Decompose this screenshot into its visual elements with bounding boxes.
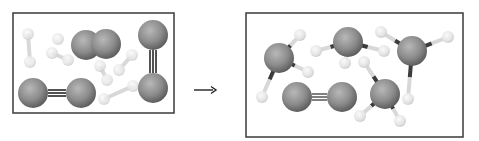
reactants-box <box>13 13 174 113</box>
nitrogen-atom <box>18 78 48 108</box>
nitrogen-atom <box>327 82 357 112</box>
hydrogen-atom <box>24 56 36 68</box>
hydrogen-atom <box>354 110 366 122</box>
hydrogen-atom <box>126 49 138 61</box>
hydrogen-atom <box>378 45 390 57</box>
hydrogen-atom <box>294 29 306 41</box>
nitrogen-atom <box>138 20 168 50</box>
hydrogen-atom <box>358 56 370 68</box>
hydrogen-atom <box>46 47 58 59</box>
hydrogen-atom <box>256 91 268 103</box>
nitrogen-atom <box>264 43 294 73</box>
nitrogen-atom <box>333 27 363 57</box>
nitrogen-atom <box>91 29 121 59</box>
hydrogen-atom <box>52 33 64 45</box>
hydrogen-atom <box>375 26 387 38</box>
hydrogen-atom <box>22 28 34 40</box>
hydrogen-atom <box>442 31 454 43</box>
nitrogen-atom <box>138 73 168 103</box>
nitrogen-atom <box>66 78 96 108</box>
reaction-arrow <box>194 87 216 94</box>
hydrogen-atom <box>302 66 314 78</box>
products-box <box>246 13 463 137</box>
nitrogen-atom <box>397 36 427 66</box>
hydrogen-atom <box>127 80 139 92</box>
hydrogen-atom <box>394 115 406 127</box>
hydrogen-atom <box>62 54 74 66</box>
hydrogen-atom <box>339 57 351 69</box>
hydrogen-atom <box>310 45 322 57</box>
nitrogen-atom <box>370 79 400 109</box>
nitrogen-atom <box>282 82 312 112</box>
hydrogen-atom <box>98 93 110 105</box>
hydrogen-atom <box>113 64 125 76</box>
reaction-diagram <box>0 0 479 141</box>
hydrogen-atom <box>402 93 414 105</box>
hydrogen-atom <box>94 60 106 72</box>
hydrogen-atom <box>101 74 113 86</box>
